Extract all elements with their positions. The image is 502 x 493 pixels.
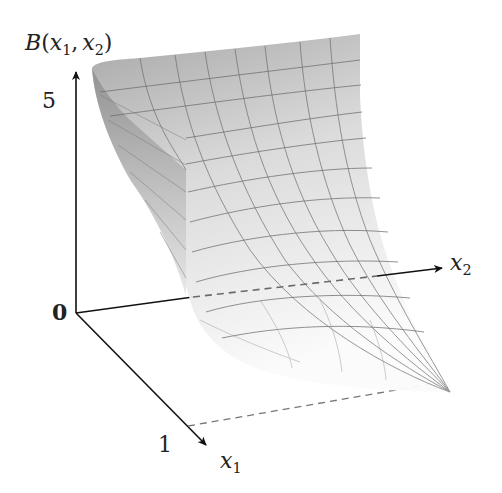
- paren-close: ): [104, 30, 113, 55]
- paren-open: (: [41, 30, 50, 55]
- x1-var: x: [220, 448, 232, 473]
- x2-axis-solid-left: [76, 297, 193, 313]
- x1-axis: [76, 313, 206, 445]
- z-label-x2: x: [82, 30, 94, 55]
- tick-label-5: 5: [42, 88, 56, 113]
- x2-var: x: [450, 250, 462, 275]
- x2-sub: 2: [462, 262, 471, 278]
- tick-label-0: 0: [52, 299, 67, 325]
- z-label-sub1: 1: [62, 42, 71, 58]
- x2-axis-label: x2: [450, 250, 472, 278]
- tick-label-1: 1: [158, 432, 172, 457]
- z-label-B: B: [25, 30, 41, 55]
- z-label-x1: x: [50, 30, 62, 55]
- surface: [92, 34, 450, 392]
- x1-sub: 1: [232, 460, 241, 476]
- z-label-sub2: 2: [95, 42, 104, 58]
- x1-axis-label: x1: [220, 448, 242, 476]
- comma: ,: [71, 30, 78, 55]
- surface-plot: [0, 0, 502, 493]
- z-axis-label: B(x1,x2): [25, 30, 112, 58]
